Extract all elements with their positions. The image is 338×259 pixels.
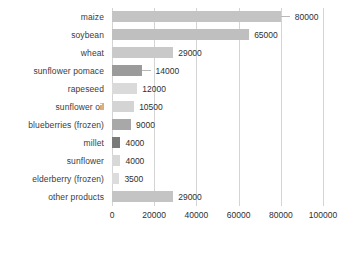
bar: [112, 29, 249, 40]
category-label: rapeseed: [0, 80, 108, 98]
bar-value-label: 12000: [137, 80, 166, 98]
value-axis-ticks: 020000400006000080000100000: [112, 210, 323, 226]
bar: [112, 155, 120, 166]
leader-line: [142, 70, 151, 71]
category-label: blueberries (frozen): [0, 116, 108, 134]
bar-value-label: 4000: [120, 152, 144, 170]
category-label: elderberry (frozen): [0, 170, 108, 188]
bar-chart: maize soybean wheat sunflower pomace rap…: [0, 0, 338, 259]
bar-rows: 80000 65000 29000 14000 12000: [112, 8, 323, 206]
bar: [112, 11, 281, 22]
bar-value-label: 10500: [134, 98, 163, 116]
bar: [112, 191, 173, 202]
bar-row: 10500: [112, 98, 323, 116]
bar-row: 14000: [112, 62, 323, 80]
value-axis-tick-label: 20000: [142, 210, 166, 220]
category-label: sunflower oil: [0, 98, 108, 116]
category-label: wheat: [0, 44, 108, 62]
category-label: millet: [0, 134, 108, 152]
category-axis-labels: maize soybean wheat sunflower pomace rap…: [0, 8, 108, 206]
value-axis-tick-label: 80000: [269, 210, 293, 220]
plot-area: 80000 65000 29000 14000 12000: [112, 8, 323, 206]
bar-value-label: 65000: [249, 26, 278, 44]
bar-value-label: 29000: [173, 44, 202, 62]
value-axis-tick-label: 40000: [185, 210, 209, 220]
category-label: other products: [0, 188, 108, 206]
bar-row: 29000: [112, 188, 323, 206]
bar-row: 4000: [112, 134, 323, 152]
bar-row: 4000: [112, 152, 323, 170]
bar-row: 80000: [112, 8, 323, 26]
category-label: soybean: [0, 26, 108, 44]
bar-row: 29000: [112, 44, 323, 62]
value-axis-tick-label: 100000: [309, 210, 337, 220]
category-label: sunflower pomace: [0, 62, 108, 80]
bar-value-label: 29000: [173, 188, 202, 206]
value-axis-tick-label: 60000: [227, 210, 251, 220]
bar: [112, 173, 119, 184]
value-axis-tick-label: 0: [110, 210, 115, 220]
bar-row: 9000: [112, 116, 323, 134]
bar-row: 65000: [112, 26, 323, 44]
category-label: sunflower: [0, 152, 108, 170]
bar: [112, 65, 142, 76]
bar: [112, 119, 131, 130]
bar: [112, 47, 173, 58]
bar: [112, 101, 134, 112]
bar-row: 3500: [112, 170, 323, 188]
bar-row: 12000: [112, 80, 323, 98]
bar-value-label: 14000: [151, 62, 180, 80]
bar-value-label: 9000: [131, 116, 155, 134]
bar: [112, 137, 120, 148]
bar-value-label: 80000: [290, 8, 319, 26]
bar: [112, 83, 137, 94]
category-label: maize: [0, 8, 108, 26]
gridline: [323, 8, 324, 206]
leader-line: [281, 16, 290, 17]
bar-value-label: 3500: [119, 170, 143, 188]
bar-value-label: 4000: [120, 134, 144, 152]
